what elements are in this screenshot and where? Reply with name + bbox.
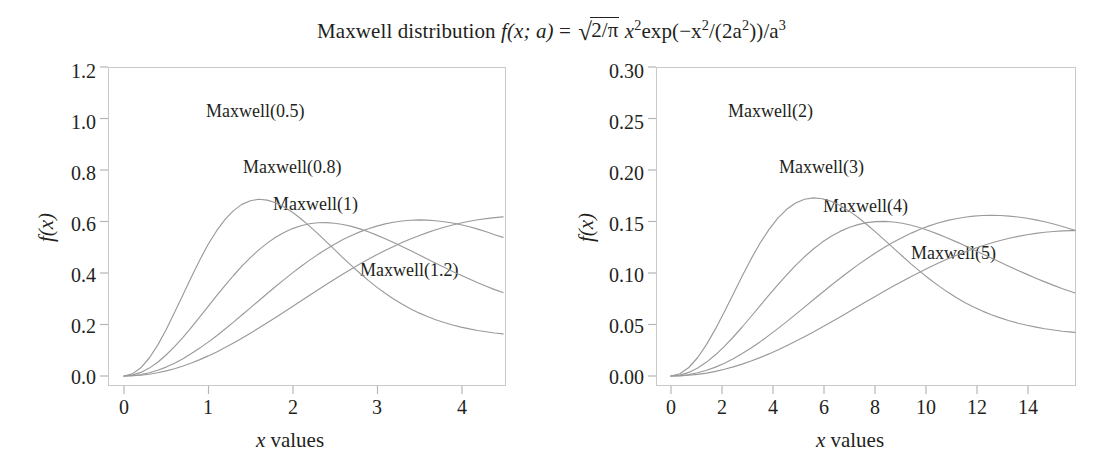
right-panel: f(x) 0.00 0.05 0.10 0.15 0.20 0.25 0.30 … [548,0,1103,471]
curve-maxwell-2 [671,198,1075,376]
maxwell-distribution-figure: Maxwell distribution f(x; a) = √2/π x2ex… [0,0,1103,471]
curve-maxwell-1-2 [124,217,503,376]
curve-maxwell-4 [671,215,1075,376]
curve-maxwell-0-5 [124,199,503,376]
curve-maxwell-3 [671,221,1075,376]
left-panel: f(x) 0.0 0.2 0.4 0.6 0.8 1.0 1.2 0 1 2 3… [0,0,540,471]
left-panel-curves [0,0,540,471]
right-panel-curves [548,0,1103,471]
curve-maxwell-5 [671,231,1075,376]
